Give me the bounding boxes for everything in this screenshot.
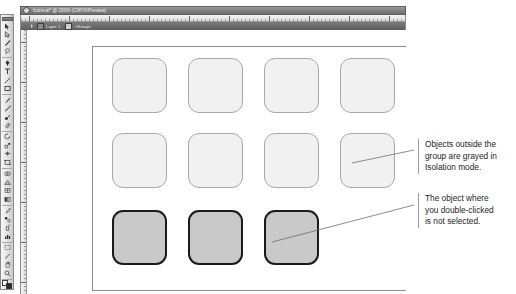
ruler-tick-minor: [24, 194, 26, 195]
close-icon[interactable]: [23, 7, 30, 14]
symbol-sprayer-tool[interactable]: [2, 224, 13, 233]
fill-stroke-swatches[interactable]: [2, 280, 13, 289]
icon-square-8[interactable]: [340, 133, 395, 188]
ruler-tick-minor: [129, 19, 130, 21]
canvas-area[interactable]: [27, 30, 406, 294]
window-title-bar[interactable]: Icons.ai* @ 150% (CMYK/Preview): [20, 6, 406, 15]
callout-line: The object where: [425, 193, 494, 205]
icon-square-6[interactable]: [188, 133, 243, 188]
ruler-tick-minor: [73, 19, 74, 21]
pen-tool[interactable]: [2, 59, 13, 68]
rectangle-tool[interactable]: [2, 84, 13, 93]
shape-builder-tool[interactable]: [2, 170, 13, 179]
ruler-tick-minor: [153, 19, 154, 21]
ruler-tick-minor: [24, 238, 26, 239]
ruler-tick-minor: [173, 19, 174, 21]
artboard-tool[interactable]: [2, 244, 13, 253]
stroke-swatch[interactable]: [6, 283, 12, 289]
gradient-tool[interactable]: [2, 195, 13, 204]
ruler-tick-minor: [24, 198, 26, 199]
isolation-layer-label[interactable]: Layer 1: [46, 24, 60, 29]
type-tool[interactable]: [2, 67, 13, 76]
icon-square-9[interactable]: [112, 210, 167, 265]
perspective-grid-tool[interactable]: [2, 178, 13, 187]
ruler-tick-minor: [24, 270, 26, 271]
mesh-tool[interactable]: [2, 187, 13, 196]
icon-square-4[interactable]: [340, 58, 395, 113]
isolation-mode-bar[interactable]: Layer 1 <Group>: [20, 22, 406, 30]
tool-separator: [2, 168, 12, 169]
icon-square-5[interactable]: [112, 133, 167, 188]
pencil-tool[interactable]: [2, 104, 13, 113]
icon-grid: [112, 58, 397, 280]
icon-square-3[interactable]: [264, 58, 319, 113]
ruler-tick-minor: [24, 190, 26, 191]
vertical-ruler[interactable]: [20, 30, 27, 294]
ruler-tick-major: [269, 16, 270, 21]
ruler-tick-minor: [125, 19, 126, 21]
blend-tool[interactable]: [2, 215, 13, 224]
tools-panel[interactable]: [0, 14, 14, 290]
ruler-tick-minor: [24, 186, 26, 187]
ruler-tick-minor: [37, 19, 38, 21]
ruler-tick-minor: [24, 174, 26, 175]
back-arrow-icon[interactable]: [31, 24, 33, 28]
ruler-tick-minor: [97, 19, 98, 21]
icon-square-11[interactable]: [264, 210, 319, 265]
ruler-tick-minor: [385, 19, 386, 21]
direct-selection-tool[interactable]: [2, 30, 13, 39]
magic-wand-tool[interactable]: [2, 39, 13, 48]
callout-line: group are grayed in: [425, 151, 497, 163]
ruler-tick-minor: [24, 278, 26, 279]
paintbrush-tool[interactable]: [2, 96, 13, 105]
icon-square-2[interactable]: [188, 58, 243, 113]
line-segment-tool[interactable]: [2, 76, 13, 85]
ruler-tick-minor: [65, 19, 66, 21]
ruler-tick-major: [309, 16, 310, 21]
ruler-tick-minor: [297, 19, 298, 21]
selection-tool[interactable]: [2, 22, 13, 31]
isolation-group-label[interactable]: <Group>: [74, 24, 91, 29]
ruler-tick-minor: [24, 154, 26, 155]
ruler-tick-minor: [53, 19, 54, 21]
ruler-tick-minor: [33, 19, 34, 21]
hand-tool[interactable]: [2, 261, 13, 270]
blob-brush-tool[interactable]: [2, 113, 13, 122]
ruler-tick-minor: [369, 19, 370, 21]
ruler-tick-minor: [24, 234, 26, 235]
rotate-tool[interactable]: [2, 133, 13, 142]
ruler-tick-major: [149, 16, 150, 21]
callout-line: you double-clicked: [425, 205, 494, 217]
column-graph-tool[interactable]: [2, 232, 13, 241]
horizontal-ruler[interactable]: [20, 15, 406, 22]
callout-line: Objects outside the: [425, 139, 497, 151]
ruler-tick-minor: [245, 19, 246, 21]
ruler-tick-minor: [181, 19, 182, 21]
width-tool[interactable]: [2, 150, 13, 159]
lasso-tool[interactable]: [2, 47, 13, 56]
icon-square-1[interactable]: [112, 58, 167, 113]
ruler-tick-minor: [273, 19, 274, 21]
ruler-tick-minor: [25, 19, 26, 21]
icon-square-10[interactable]: [188, 210, 243, 265]
icon-square-7[interactable]: [264, 133, 319, 188]
ruler-tick-minor: [24, 170, 26, 171]
ruler-tick-minor: [24, 182, 26, 183]
tools-panel-grip[interactable]: [2, 17, 13, 21]
ruler-tick-minor: [85, 19, 86, 21]
ruler-tick-minor: [24, 126, 26, 127]
zoom-tool[interactable]: [2, 269, 13, 278]
ruler-tick-minor: [24, 30, 26, 31]
ruler-tick-minor: [24, 254, 26, 255]
scale-tool[interactable]: [2, 141, 13, 150]
eyedropper-tool[interactable]: [2, 207, 13, 216]
eraser-tool[interactable]: [2, 121, 13, 130]
ruler-tick-minor: [57, 19, 58, 21]
ruler-tick-minor: [281, 19, 282, 21]
ruler-tick-minor: [113, 19, 114, 21]
ruler-tick-major: [21, 162, 26, 163]
tool-separator: [2, 205, 12, 206]
ruler-tick-minor: [24, 114, 26, 115]
free-transform-tool[interactable]: [2, 158, 13, 167]
slice-tool[interactable]: [2, 252, 13, 261]
